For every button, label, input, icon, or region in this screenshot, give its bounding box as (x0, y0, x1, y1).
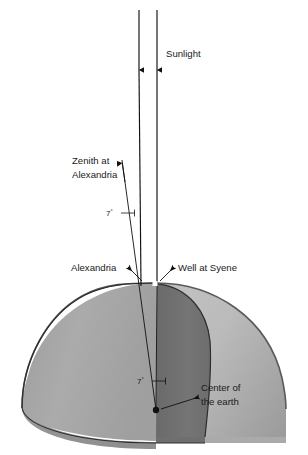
well-opening (153, 281, 158, 286)
label-center-line2: the earth (201, 396, 239, 407)
angle-top-unit: ° (110, 208, 112, 214)
label-zenith-line2: Alexandria (72, 169, 118, 180)
zenith-arrow (122, 163, 125, 182)
alexandria-leader (128, 267, 142, 281)
label-center-line1: Center of (201, 382, 241, 393)
syene-leader (160, 267, 174, 281)
label-well-at-syene: Well at Syene (178, 262, 237, 273)
globe-wedge-base (156, 437, 205, 443)
label-sunlight: Sunlight (166, 48, 201, 59)
globe-left-face (22, 283, 156, 441)
angle-bottom-unit: ° (141, 376, 143, 382)
label-angle-top: 7° (106, 208, 113, 218)
earth-globe (22, 283, 286, 449)
label-zenith-line1: Zenith at (72, 155, 110, 166)
label-alexandria: Alexandria (71, 262, 117, 273)
earth-center-dot (153, 407, 159, 413)
diagram-canvas: Sunlight Zenith at Alexandria 7° Alexand… (0, 0, 308, 455)
eratosthenes-diagram: Sunlight Zenith at Alexandria 7° Alexand… (0, 0, 308, 455)
globe-bottom-strip (205, 437, 286, 443)
sun-ray-left-lower (139, 70, 141, 286)
